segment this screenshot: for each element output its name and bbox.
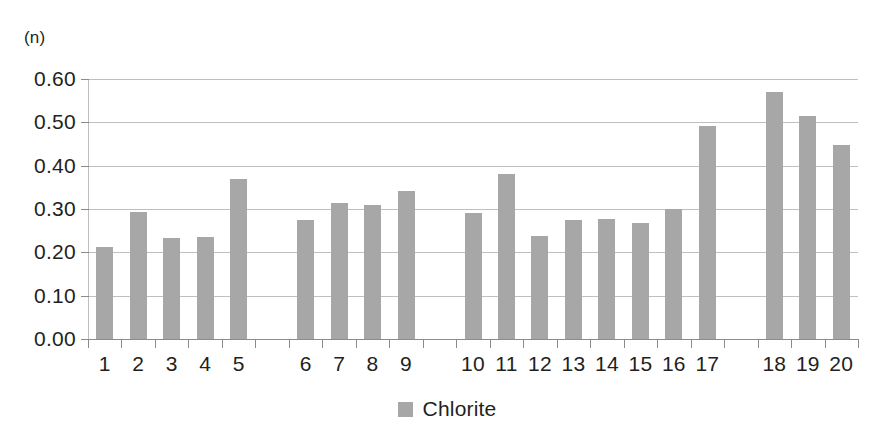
legend-label-chlorite: Chlorite [423, 398, 497, 420]
y-axis-tick-mark [81, 166, 89, 167]
y-axis-tick-label: 0.60 [14, 68, 76, 89]
bar [364, 205, 381, 339]
y-axis-tick-mark [81, 79, 89, 80]
y-axis-tick-label: 0.10 [14, 285, 76, 306]
bar [331, 203, 348, 340]
bar [833, 145, 850, 339]
bar [799, 116, 816, 339]
x-axis-tick-label: 17 [687, 352, 727, 376]
x-axis-tick-mark [858, 340, 859, 348]
chart-legend: Chlorite [0, 398, 894, 420]
gridline [88, 122, 858, 123]
x-axis-tick-label: 5 [219, 352, 259, 376]
x-axis-tick-mark [423, 340, 424, 348]
x-axis-tick-mark [255, 340, 256, 348]
plot-area [88, 79, 858, 339]
x-axis-tick-mark [222, 340, 223, 348]
y-axis-tick-mark [81, 252, 89, 253]
y-axis-tick-label: 0.50 [14, 111, 76, 132]
bar [297, 220, 314, 339]
bar [766, 92, 783, 339]
y-axis-tick-label: 0.30 [14, 198, 76, 219]
gridline [88, 79, 858, 80]
gridline [88, 209, 858, 210]
x-axis-tick-mark [356, 340, 357, 348]
bar [130, 212, 147, 339]
x-axis-tick-mark [825, 340, 826, 348]
x-axis-tick-mark [322, 340, 323, 348]
x-axis-tick-label: 20 [821, 352, 861, 376]
x-axis-tick-mark [724, 340, 725, 348]
bar [498, 174, 515, 339]
x-axis-tick-mark [691, 340, 692, 348]
bar [96, 247, 113, 339]
x-axis-tick-mark [490, 340, 491, 348]
bar [598, 219, 615, 339]
y-axis-tick-label: 0.40 [14, 155, 76, 176]
x-axis-tick-mark [590, 340, 591, 348]
y-axis-tick-mark [81, 296, 89, 297]
y-axis-tick-label: 0.00 [14, 328, 76, 349]
legend-swatch-chlorite [398, 402, 413, 417]
x-axis-tick-mark [121, 340, 122, 348]
x-axis-tick-mark [456, 340, 457, 348]
x-axis-tick-label: 9 [386, 352, 426, 376]
bar [531, 236, 548, 339]
x-axis-tick-mark [155, 340, 156, 348]
bar [197, 237, 214, 339]
x-axis-tick-mark [557, 340, 558, 348]
gridline [88, 166, 858, 167]
y-axis-tick-mark [81, 122, 89, 123]
x-axis-tick-mark [657, 340, 658, 348]
bar [163, 238, 180, 339]
x-axis-tick-mark [188, 340, 189, 348]
y-axis-tick-labels: 0.600.500.400.300.200.100.00 [12, 0, 76, 442]
bar [398, 191, 415, 339]
y-axis-tick-label: 0.20 [14, 241, 76, 262]
x-axis-tick-mark [523, 340, 524, 348]
bar [230, 179, 247, 339]
x-axis-tick-mark [624, 340, 625, 348]
y-axis-tick-mark [81, 209, 89, 210]
x-axis-tick-mark [389, 340, 390, 348]
bar [565, 220, 582, 339]
x-axis-tick-mark [88, 340, 89, 348]
bar [665, 209, 682, 339]
bar-chart: (n) 0.600.500.400.300.200.100.00 Chlorit… [0, 0, 894, 442]
x-axis-tick-mark [758, 340, 759, 348]
x-axis-line [88, 339, 859, 340]
bar [465, 213, 482, 339]
bar [632, 223, 649, 339]
bar [699, 126, 716, 339]
x-axis-tick-mark [791, 340, 792, 348]
x-axis-tick-mark [289, 340, 290, 348]
